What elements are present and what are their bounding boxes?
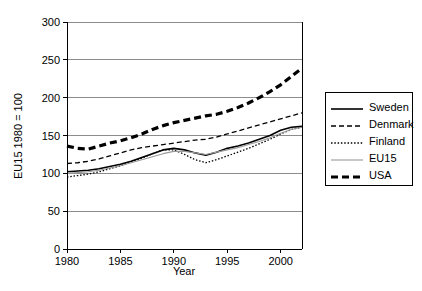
legend-swatch-finland — [330, 135, 364, 147]
x-tick-label: 1980 — [55, 255, 79, 267]
y-tick-label: 50 — [48, 205, 60, 217]
chart-figure: 050100150200250300 19801985199019952000 … — [0, 0, 422, 291]
legend-item-eu15[interactable]: EU15 — [330, 149, 408, 166]
legend-item-denmark[interactable]: Denmark — [330, 115, 408, 132]
y-tick-label: 250 — [42, 54, 60, 66]
legend-swatch-usa — [330, 169, 364, 181]
legend-label-sweden: Sweden — [369, 101, 409, 113]
legend-label-usa: USA — [369, 169, 392, 181]
y-tick-label: 300 — [42, 16, 60, 28]
legend-label-finland: Finland — [369, 135, 405, 147]
y-tick-label: 150 — [42, 130, 60, 142]
x-tick-label: 1985 — [108, 255, 132, 267]
y-axis-title: EU15 1980 = 100 — [12, 93, 24, 179]
x-tick-label: 1995 — [215, 255, 239, 267]
data-series-group — [67, 68, 302, 177]
x-axis-title: Year — [173, 265, 196, 277]
legend-swatch-denmark — [330, 118, 364, 130]
legend-swatch-eu15 — [330, 152, 364, 164]
y-tick-label: 0 — [54, 243, 60, 255]
gridlines — [67, 22, 302, 211]
y-tick-label: 100 — [42, 167, 60, 179]
y-tick-label: 200 — [42, 92, 60, 104]
legend-label-eu15: EU15 — [369, 152, 397, 164]
y-axis-ticks: 050100150200250300 — [42, 16, 67, 255]
x-tick-label: 2000 — [268, 255, 292, 267]
legend-item-finland[interactable]: Finland — [330, 132, 408, 149]
legend-item-usa[interactable]: USA — [330, 166, 408, 183]
legend-swatch-sweden — [330, 101, 364, 113]
legend-item-sweden[interactable]: Sweden — [330, 98, 408, 115]
series-line-sweden — [67, 126, 302, 171]
chart-legend: SwedenDenmarkFinlandEU15USA — [325, 92, 413, 186]
legend-label-denmark: Denmark — [369, 118, 414, 130]
